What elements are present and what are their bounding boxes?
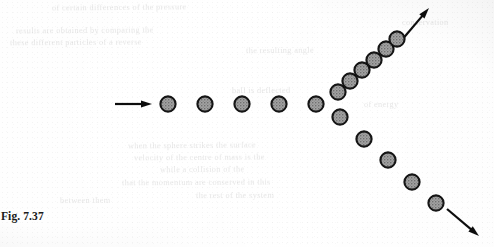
figure-page: of certain differences of the pressurere… (0, 0, 494, 247)
figure-caption: Fig. 7.37 (1, 210, 44, 222)
sphere (404, 174, 419, 189)
lower-outgoing-chain (332, 109, 443, 210)
sphere (234, 96, 249, 111)
sphere (366, 52, 381, 67)
arrow-shaft (447, 209, 473, 231)
sphere (356, 131, 371, 146)
incoming-direction-arrow (115, 101, 152, 108)
sphere (342, 73, 357, 88)
sphere (332, 109, 347, 124)
incoming-chain (160, 96, 323, 111)
sphere (330, 84, 345, 99)
sphere (380, 152, 395, 167)
arrow-head (141, 101, 152, 108)
sphere (389, 31, 404, 46)
sphere (308, 96, 323, 111)
sphere (160, 96, 175, 111)
lower-outgoing-direction-arrow (447, 209, 479, 236)
sphere (428, 195, 443, 210)
upper-outgoing-direction-arrow (401, 8, 429, 41)
sphere (271, 96, 286, 111)
upper-outgoing-chain (330, 31, 404, 99)
collision-diagram (0, 0, 494, 247)
sphere (197, 96, 212, 111)
